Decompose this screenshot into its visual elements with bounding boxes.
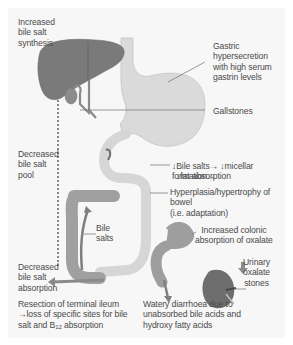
label-gastric-hypersecretion: Gastric hypersecretion with high serum g… — [213, 41, 272, 82]
label-bile-salts: Bile salts — [96, 223, 113, 244]
label-decreased-pool: Decreased bile salt pool — [18, 149, 59, 180]
label-increased-synthesis: Increased bile salt synthesis — [18, 17, 55, 48]
label-colonic-oxalate: Increased colonic absorption of oxalate — [195, 225, 273, 246]
label-hyperplasia: Hyperplasia/hypertrophy of bowel (i.e. a… — [170, 187, 293, 218]
label-gallstones: Gallstones — [213, 106, 253, 116]
label-decreased-absorption: Decreased bile salt absorption — [18, 262, 59, 293]
label-bile-salts-effect-2: ↓fat absorption — [176, 171, 231, 181]
label-diarrhoea: Watery diarrhoea due to unabsorbed bile … — [143, 299, 241, 330]
stomach-icon — [120, 38, 205, 146]
label-urinary-stones: Urinary oxalate stones — [243, 257, 270, 288]
small-intestine-icon — [100, 134, 146, 272]
resection-text-suffix: absorption — [62, 320, 103, 330]
label-resection: Resection of terminal ileum →loss of spe… — [18, 299, 128, 330]
